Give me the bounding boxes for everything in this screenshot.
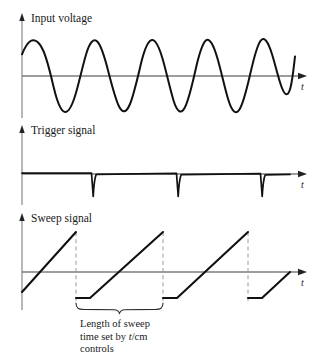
sweep-signal-ramp-2 <box>76 232 163 298</box>
input-voltage-label: Input voltage <box>31 12 92 25</box>
panel-input-voltage: Input voltage t <box>19 12 307 118</box>
sweep-signal-ramp-1 <box>22 232 76 292</box>
waveform-diagram: Input voltage t Trigger signal t <box>0 0 331 363</box>
sweep-signal-ramp-3 <box>163 232 248 298</box>
trigger-signal-axis-label: t <box>301 179 304 190</box>
sweep-signal-axis-label: t <box>301 277 304 288</box>
trigger-signal-pulse-train <box>22 173 290 197</box>
input-voltage-y-arrowhead <box>19 13 24 21</box>
annotation-caption-line-2: time set by t/cm <box>80 331 147 342</box>
annotation-caption-prefix: time set by <box>80 331 129 342</box>
sweep-signal-x-arrowhead <box>298 269 307 275</box>
trigger-signal-label: Trigger signal <box>31 124 95 137</box>
annotation-caption-line-1: Length of sweep <box>80 318 150 329</box>
input-voltage-axis-label: t <box>301 81 304 92</box>
sweep-length-brace <box>76 303 163 313</box>
annotation-caption-suffix: /cm <box>132 331 148 342</box>
trigger-signal-y-arrowhead <box>19 125 24 133</box>
annotation-caption-line-3: controls <box>80 343 114 354</box>
sweep-signal-label: Sweep signal <box>31 212 92 225</box>
sweep-length-annotation: Length of sweep time set by t/cm control… <box>76 303 163 354</box>
panel-sweep-signal: Sweep signal t <box>19 212 307 310</box>
input-voltage-x-arrowhead <box>298 73 307 79</box>
trigger-signal-x-arrowhead <box>298 171 307 177</box>
sweep-signal-y-arrowhead <box>19 213 24 221</box>
sweep-signal-ramp-4 <box>248 272 290 298</box>
panel-trigger-signal: Trigger signal t <box>19 124 307 205</box>
figure-root: Input voltage t Trigger signal t <box>0 0 331 363</box>
